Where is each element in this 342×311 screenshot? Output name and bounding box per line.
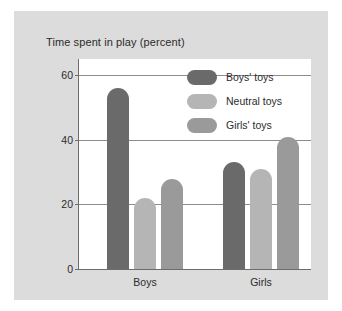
bar-girls-girls-toys[interactable] xyxy=(277,137,299,269)
y-tick-mark-0 xyxy=(75,269,79,270)
legend-label: Girls' toys xyxy=(226,119,272,131)
legend-item-girls-toys[interactable]: Girls' toys xyxy=(187,113,307,137)
bar-girls-boys-toys[interactable] xyxy=(223,162,245,269)
legend-swatch-icon xyxy=(187,70,217,85)
legend-label: Boys' toys xyxy=(226,71,274,83)
x-axis-label-boys: Boys xyxy=(107,276,183,288)
x-axis-label-girls: Girls xyxy=(223,276,299,288)
figure-card: Time spent in play (percent) 0204060 Boy… xyxy=(14,11,328,300)
legend-swatch-icon xyxy=(187,118,217,133)
legend-item-boys-toys[interactable]: Boys' toys xyxy=(187,65,307,89)
chart-legend: Boys' toysNeutral toysGirls' toys xyxy=(187,65,307,137)
y-tick-label-60: 60 xyxy=(61,69,73,81)
y-tick-label-20: 20 xyxy=(61,198,73,210)
bar-girls-neutral-toys[interactable] xyxy=(250,169,272,269)
legend-item-neutral-toys[interactable]: Neutral toys xyxy=(187,89,307,113)
legend-swatch-icon xyxy=(187,94,217,109)
bar-boys-girls-toys[interactable] xyxy=(161,179,183,269)
bar-boys-boys-toys[interactable] xyxy=(107,88,129,269)
legend-label: Neutral toys xyxy=(226,95,282,107)
plot-area: 0204060 BoysGirls Boys' toysNeutral toys… xyxy=(78,59,311,270)
bar-group-boys: Boys xyxy=(107,59,183,269)
bar-boys-neutral-toys[interactable] xyxy=(134,198,156,269)
chart-title: Time spent in play (percent) xyxy=(46,36,185,48)
y-tick-label-40: 40 xyxy=(61,134,73,146)
y-tick-label-0: 0 xyxy=(67,263,73,275)
